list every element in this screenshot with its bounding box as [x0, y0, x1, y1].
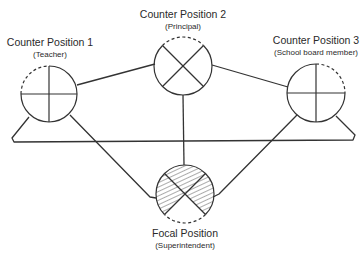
link-counter3-focal: [213, 115, 297, 197]
counter-position-2-label: Counter Position 2 (Principal): [140, 8, 226, 32]
focal-position-circle: [156, 165, 214, 223]
counter-position-3-label: Counter Position 3 (School board member): [273, 34, 359, 58]
focal-position-label: Focal Position (Superintendent): [152, 227, 218, 251]
counter-position-2-title: Counter Position 2: [140, 8, 226, 21]
link-counter2-focal: [183, 95, 184, 165]
counter-position-3-circle: [287, 64, 345, 122]
focal-position-title: Focal Position: [152, 227, 218, 240]
counter-position-2-role: (Principal): [140, 21, 226, 32]
focal-position-role: (Superintendent): [152, 240, 218, 251]
counter-position-1-circle: [21, 66, 77, 122]
counter-position-1-label: Counter Position 1 (Teacher): [7, 36, 93, 60]
counter-position-3-title: Counter Position 3: [273, 34, 359, 47]
counter-position-2-circle: [154, 37, 212, 95]
counter-position-1-role: (Teacher): [7, 49, 93, 60]
counter-position-3-role: (School board member): [273, 47, 359, 58]
link-counter1-focal: [70, 115, 156, 198]
link-counter1-counter2: [77, 64, 155, 85]
counter-position-1-title: Counter Position 1: [7, 36, 93, 49]
link-counter2-counter3: [212, 65, 288, 87]
